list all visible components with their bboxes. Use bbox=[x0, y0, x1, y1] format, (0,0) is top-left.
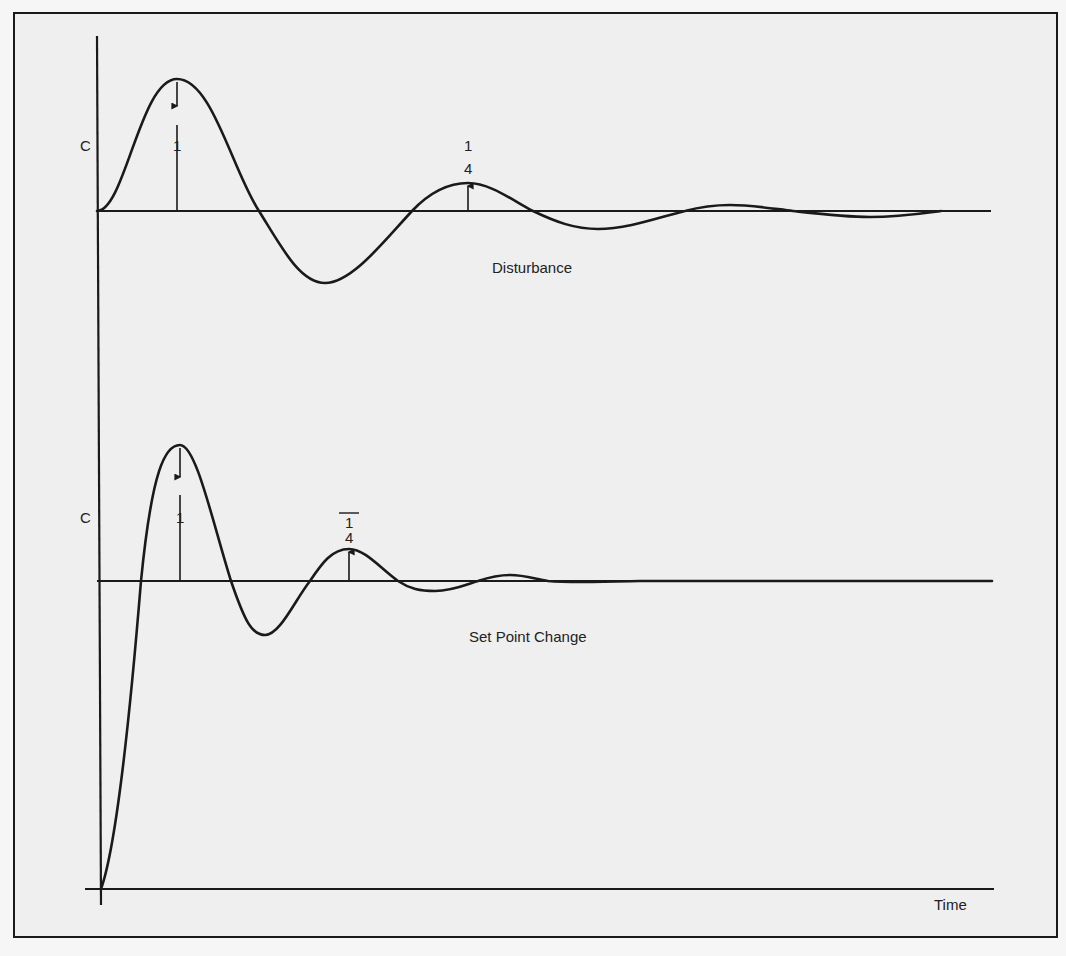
top-peak2-numerator: 1 bbox=[464, 137, 472, 154]
top-peak2-denominator: 4 bbox=[464, 160, 472, 177]
bottom-peak2-denominator: 4 bbox=[345, 529, 353, 546]
top-y-axis-label: C bbox=[80, 137, 91, 154]
x-axis-label: Time bbox=[934, 896, 967, 913]
figure-frame bbox=[14, 13, 1057, 937]
bottom-y-axis-label: C bbox=[80, 509, 91, 526]
bottom-caption: Set Point Change bbox=[469, 628, 587, 645]
top-caption: Disturbance bbox=[492, 259, 572, 276]
top-peak1-label: 1 bbox=[173, 137, 181, 154]
bottom-peak1-label: 1 bbox=[176, 509, 184, 526]
control-response-figure: C 1 1 4 Disturbance C 1 1 4 Set Point Ch… bbox=[0, 0, 1066, 956]
